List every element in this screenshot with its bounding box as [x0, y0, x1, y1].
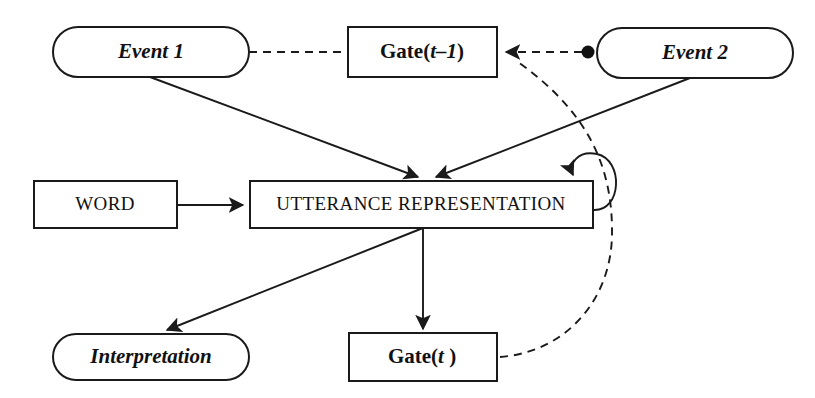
- edge-event1-to-utterance: [150, 77, 418, 177]
- node-gate-t-label: Gate(t ): [388, 344, 456, 368]
- gate-t-tail: ): [444, 344, 456, 368]
- node-utterance-representation-label: UTTERANCE REPRESENTATION: [276, 193, 565, 214]
- gate-t-minus-1-italic-part: t–1: [430, 39, 457, 63]
- edge-event2-to-utterance: [436, 78, 690, 177]
- gate-t-minus-1-tail: ): [457, 39, 464, 63]
- junction-dot-event2: [582, 46, 595, 59]
- node-interpretation-label: Interpretation: [89, 344, 211, 368]
- gate-t-minus-1-bold-part: Gate(: [380, 39, 430, 63]
- node-event-1-label: Event 1: [117, 39, 184, 63]
- node-gate-t-minus-1-label: Gate(t–1): [380, 39, 464, 63]
- node-event-2-label: Event 2: [661, 40, 728, 64]
- diagram-svg: Gate(t-1) --> Utterance (diagonal down-r…: [0, 0, 815, 398]
- edge-utterance-to-interpretation: [167, 228, 423, 330]
- node-word-label: WORD: [75, 193, 135, 214]
- diagram-canvas: Gate(t-1) --> Utterance (diagonal down-r…: [0, 0, 815, 398]
- gate-t-bold-part: Gate(: [388, 344, 438, 368]
